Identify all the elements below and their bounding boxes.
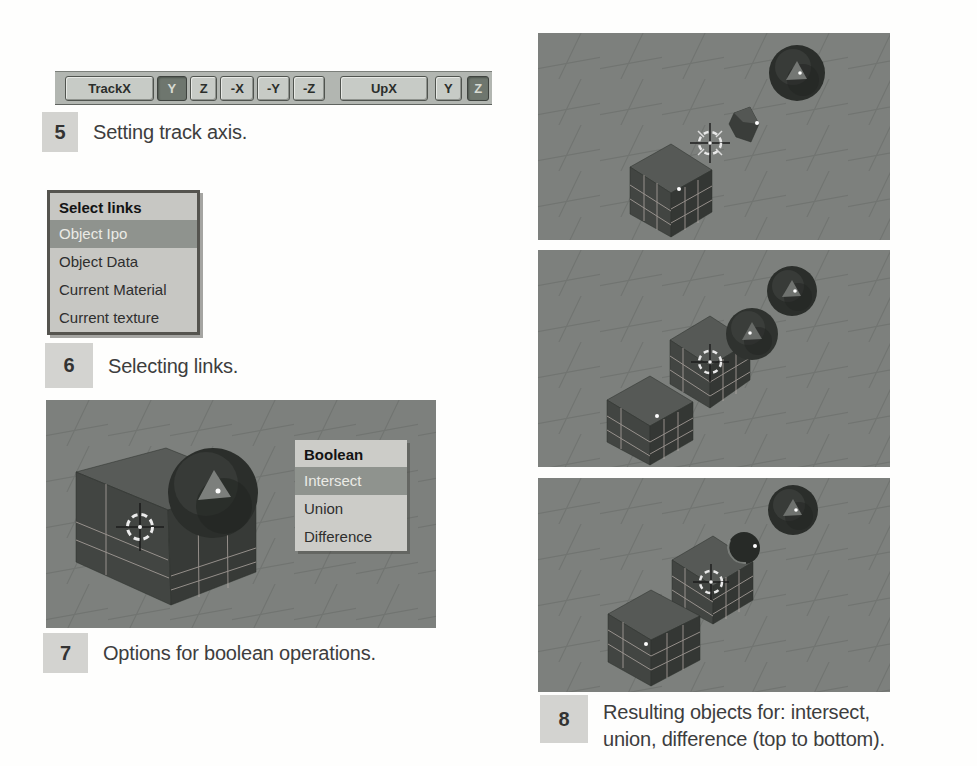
book-page: TrackX Y Z -X -Y -Z UpX Y Z 5 Setting tr… — [0, 0, 977, 766]
figure5-number: 5 — [42, 112, 78, 152]
figure8-number: 8 — [540, 695, 588, 743]
union-result-image — [538, 250, 890, 467]
menu-item-object-ipo[interactable]: Object Ipo — [50, 220, 197, 248]
sphere-object — [767, 266, 817, 316]
sphere-object — [168, 448, 258, 538]
menu-item-object-data[interactable]: Object Data — [50, 248, 197, 276]
viewport-3d-union-result — [538, 250, 890, 467]
sphere-object — [768, 485, 818, 535]
figure7-caption-text: Options for boolean operations. — [103, 633, 376, 673]
select-links-menu-title: Select links — [50, 193, 197, 220]
figure8-caption: 8 Resulting objects for: intersect, unio… — [540, 695, 885, 753]
viewport-3d-difference-result — [538, 478, 890, 692]
boolean-menu: Boolean Intersect Union Difference — [295, 440, 407, 551]
viewport-3d-boolean-menu: Boolean Intersect Union Difference — [46, 400, 436, 628]
track-y-button[interactable]: Y — [157, 76, 187, 101]
up-z-button[interactable]: Z — [467, 76, 489, 101]
figure6-caption: 6 Selecting links. — [45, 343, 238, 388]
up-x-button[interactable]: UpX — [340, 76, 427, 101]
figure7-caption: 7 Options for boolean operations. — [43, 633, 376, 673]
boolean-menu-title: Boolean — [295, 440, 407, 467]
track-axis-toolbar: TrackX Y Z -X -Y -Z UpX Y Z — [55, 71, 492, 105]
track-z-button[interactable]: Z — [190, 76, 218, 101]
sphere-object — [769, 45, 825, 101]
menu-item-difference[interactable]: Difference — [295, 523, 407, 551]
difference-result-image — [538, 478, 890, 692]
track-neg-z-button[interactable]: -Z — [293, 76, 326, 101]
intersect-result-image — [538, 33, 890, 240]
figure7-number: 7 — [43, 633, 88, 673]
viewport-3d-intersect-result — [538, 33, 890, 240]
menu-item-intersect[interactable]: Intersect — [295, 467, 407, 495]
figure5-caption: 5 Setting track axis. — [42, 112, 247, 152]
figure6-number: 6 — [45, 343, 93, 388]
menu-item-union[interactable]: Union — [295, 495, 407, 523]
select-links-menu: Select links Object Ipo Object Data Curr… — [47, 190, 200, 335]
track-neg-y-button[interactable]: -Y — [257, 76, 290, 101]
up-y-button[interactable]: Y — [435, 76, 463, 101]
menu-item-current-material[interactable]: Current Material — [50, 276, 197, 304]
figure5-caption-text: Setting track axis. — [93, 112, 247, 152]
figure8-caption-line1: Resulting objects for: intersect, — [603, 699, 885, 726]
menu-item-current-texture[interactable]: Current texture — [50, 304, 197, 332]
figure8-caption-line2: union, difference (top to bottom). — [603, 726, 885, 753]
track-neg-x-button[interactable]: -X — [220, 76, 254, 101]
track-x-button[interactable]: TrackX — [65, 76, 154, 101]
figure6-caption-text: Selecting links. — [108, 343, 238, 388]
